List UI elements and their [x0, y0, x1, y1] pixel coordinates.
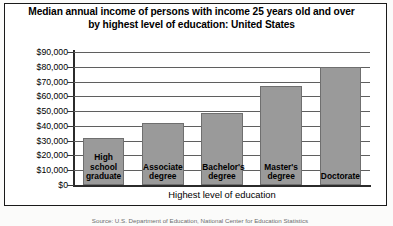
y-axis-tick: [67, 170, 74, 171]
x-axis-line: [73, 185, 371, 187]
bar-label-line: degree: [143, 172, 182, 182]
bar: Master'sdegree: [260, 86, 301, 185]
bar-label: Highschoolgraduate: [84, 153, 123, 182]
y-axis-tick-label: $30,000: [37, 137, 68, 146]
bar-label-line: Doctorate: [321, 172, 360, 182]
bar-label: Master'sdegree: [261, 163, 300, 182]
chart-title-line-1: Median annual income of persons with inc…: [10, 6, 373, 19]
bar: Highschoolgraduate: [83, 138, 124, 185]
y-axis-tick: [67, 82, 74, 83]
y-axis-tick-label: $80,000: [37, 63, 68, 72]
y-axis-tick: [67, 111, 74, 112]
bar: Doctorate: [320, 67, 361, 185]
y-axis-tick-label: $70,000: [37, 78, 68, 87]
y-axis-tick: [67, 155, 74, 156]
bar-label: Doctorate: [321, 172, 360, 182]
bar-label-line: degree: [202, 172, 241, 182]
figure: Median annual income of persons with inc…: [0, 0, 393, 226]
y-axis-tick-labels: $0$10,000$20,000$30,000$40,000$50,000$60…: [8, 52, 68, 185]
y-axis-tick-label: $40,000: [37, 122, 68, 131]
source-note: Source: U.S. Department of Education, Na…: [40, 217, 360, 224]
plot-area: HighschoolgraduateAssociatedegreeBachelo…: [74, 52, 370, 185]
y-axis-tick-label: $20,000: [37, 151, 68, 160]
bar-label: Associatedegree: [143, 163, 182, 182]
gridline: [74, 52, 370, 53]
bar-label-line: graduate: [84, 172, 123, 182]
y-axis-tick-label: $10,000: [37, 166, 68, 175]
x-axis-title: Highest level of education: [74, 189, 370, 200]
y-axis-tick: [67, 141, 74, 142]
y-axis-tick: [67, 52, 74, 53]
y-axis-tick-label: $90,000: [37, 48, 68, 57]
bar: Bachelor'sdegree: [201, 113, 242, 185]
bar: Associatedegree: [142, 123, 183, 185]
bar-label: Bachelor'sdegree: [202, 163, 241, 182]
bar-label-line: degree: [261, 172, 300, 182]
chart-title: Median annual income of persons with inc…: [10, 6, 373, 31]
y-axis-tick: [67, 126, 74, 127]
y-axis-tick: [67, 185, 74, 186]
chart-title-line-2: by highest level of education: United St…: [10, 19, 373, 32]
y-axis-tick: [67, 67, 74, 68]
y-axis-tick: [67, 96, 74, 97]
y-axis-tick-label: $60,000: [37, 92, 68, 101]
y-axis-tick-label: $50,000: [37, 107, 68, 116]
